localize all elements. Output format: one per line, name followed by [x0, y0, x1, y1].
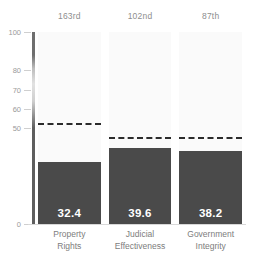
- bar-value-label: 38.2: [179, 207, 242, 219]
- rank-label: 87th: [175, 8, 246, 24]
- category-label-line: Judicial: [105, 229, 176, 241]
- y-tick-label: 50: [13, 124, 21, 133]
- bar-value-label: 32.4: [38, 207, 101, 219]
- y-tick-mark: [24, 90, 31, 91]
- category-label-judicial-effectiveness: Judicial Effectiveness: [105, 229, 176, 252]
- category-label-line: Property: [34, 229, 105, 241]
- rank-label-row: 163rd 102nd 87th: [34, 8, 246, 24]
- category-label-line: Integrity: [175, 241, 246, 253]
- plot-area: 32.4 39.6 38.2: [34, 32, 246, 224]
- bar-value-label: 39.6: [109, 207, 172, 219]
- category-label-government-integrity: Government Integrity: [175, 229, 246, 252]
- category-label-property-rights: Property Rights: [34, 229, 105, 252]
- bar[interactable]: 39.6: [109, 148, 172, 224]
- y-tick-label: 0: [17, 220, 21, 229]
- column-property-rights: 32.4: [34, 32, 105, 224]
- category-label-row: Property Rights Judicial Effectiveness G…: [34, 229, 246, 252]
- y-tick-label: 80: [13, 66, 21, 75]
- bar-chart: 163rd 102nd 87th 100807060500 32.4 39.6: [0, 0, 255, 260]
- reference-line: [109, 137, 172, 139]
- y-tick-mark: [24, 70, 31, 71]
- bar[interactable]: 32.4: [38, 162, 101, 224]
- bar[interactable]: 38.2: [179, 151, 242, 224]
- y-tick-label: 60: [13, 104, 21, 113]
- y-tick-mark: [24, 32, 31, 33]
- x-axis-baseline: [28, 224, 246, 225]
- category-label-line: Government: [175, 229, 246, 241]
- y-tick-label: 100: [8, 28, 21, 37]
- rank-label: 102nd: [105, 8, 176, 24]
- category-label-line: Effectiveness: [105, 241, 176, 253]
- category-label-line: Rights: [34, 241, 105, 253]
- reference-line: [179, 137, 242, 139]
- rank-label: 163rd: [34, 8, 105, 24]
- column-judicial-effectiveness: 39.6: [105, 32, 176, 224]
- y-tick-mark: [24, 109, 31, 110]
- column-government-integrity: 38.2: [175, 32, 246, 224]
- reference-line: [38, 123, 101, 125]
- y-tick-label: 70: [13, 85, 21, 94]
- y-tick-mark: [24, 128, 31, 129]
